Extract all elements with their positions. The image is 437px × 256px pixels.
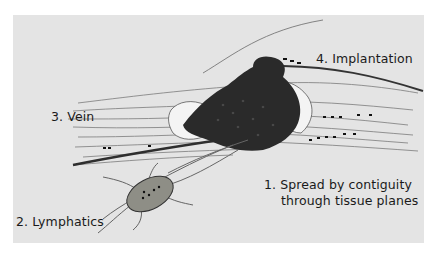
lymph-node [98, 163, 193, 233]
label-lymphatics: 2. Lymphatics [16, 215, 104, 229]
label-contiguity-line1: 1. Spread by contiguity [264, 178, 412, 192]
surface-line [283, 66, 423, 91]
label-contiguity-line2: through tissue planes [281, 194, 418, 208]
label-vein: 3. Vein [51, 110, 94, 124]
label-implantation: 4. Implantation [316, 52, 413, 66]
illustration-panel: 4. Implantation 3. Vein 1. Spread by con… [13, 15, 424, 243]
tumor-spread-illustration [13, 15, 424, 243]
